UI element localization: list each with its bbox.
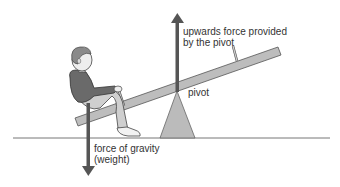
seesaw-diagram: [0, 0, 340, 187]
upward-force-label-line2: by the pivot: [183, 37, 287, 48]
upward-force-label: upwards force provided by the pivot: [183, 26, 287, 48]
upward-force-label-line1: upwards force provided: [183, 26, 287, 37]
pivot-triangle: [160, 91, 195, 138]
gravity-label: force of gravity (weight): [94, 143, 160, 165]
pivot-label: pivot: [188, 87, 209, 98]
gravity-label-line2: (weight): [94, 154, 160, 165]
gravity-label-line1: force of gravity: [94, 143, 160, 154]
